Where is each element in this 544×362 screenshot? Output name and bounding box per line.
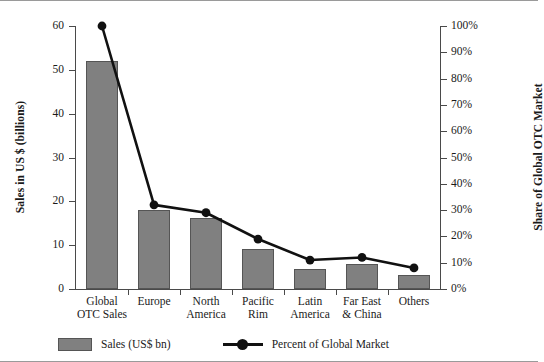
y-axis-left-tick-label: 20	[24, 195, 64, 207]
x-axis-category-label: Others	[380, 295, 448, 308]
legend-item-sales: Sales (US$ bn)	[58, 338, 171, 351]
y-axis-left-tick	[69, 245, 76, 246]
y-axis-right-tick-label: 20%	[451, 230, 497, 242]
y-axis-right-tick-label: 50%	[451, 152, 497, 164]
legend-swatch-icon	[58, 338, 92, 351]
bar	[398, 275, 430, 289]
legend-line-marker-icon	[223, 338, 263, 350]
y-axis-left-tick-label: 0	[24, 283, 64, 295]
x-axis-line	[75, 289, 441, 290]
bar	[190, 218, 222, 289]
y-axis-left-tick	[69, 26, 76, 27]
x-axis-tick	[336, 289, 337, 295]
y-axis-left-tick	[69, 114, 76, 115]
line-marker	[202, 208, 211, 217]
y-axis-right-tick	[440, 26, 447, 27]
y-axis-left-tick-label: 30	[24, 152, 64, 164]
y-axis-left-tick	[69, 158, 76, 159]
y-axis-right-tick-label: 10%	[451, 257, 497, 269]
y-axis-left-tick-label: 60	[24, 20, 64, 32]
y-axis-right-title: Share of Global OTC Market	[532, 67, 544, 247]
y-axis-right-tick	[440, 236, 447, 237]
y-axis-right-tick	[440, 289, 447, 290]
y-axis-right-tick-label: 60%	[451, 125, 497, 137]
y-axis-right-tick	[440, 105, 447, 106]
bar	[294, 269, 326, 289]
x-axis-tick	[128, 289, 129, 295]
line-marker	[98, 22, 107, 31]
y-axis-right-tick-label: 90%	[451, 46, 497, 58]
y-axis-right-tick-label: 70%	[451, 99, 497, 111]
y-axis-right-tick	[440, 210, 447, 211]
y-axis-right-tick-label: 100%	[451, 20, 497, 32]
line-marker	[254, 235, 263, 244]
x-axis-tick	[232, 289, 233, 295]
x-axis-tick	[388, 289, 389, 295]
legend-label-percent: Percent of Global Market	[272, 338, 389, 350]
y-axis-left-tick	[69, 289, 76, 290]
y-axis-right-tick	[440, 263, 447, 264]
y-axis-right-tick-label: 40%	[451, 178, 497, 190]
bar	[346, 264, 378, 289]
y-axis-right-tick	[440, 79, 447, 80]
y-axis-right-tick-label: 0%	[451, 283, 497, 295]
bar	[86, 61, 118, 289]
y-axis-right-tick	[440, 131, 447, 132]
line-marker	[150, 200, 159, 209]
bar	[242, 249, 274, 289]
y-axis-left-tick-label: 50	[24, 64, 64, 76]
line-marker	[358, 253, 367, 262]
x-axis-tick	[180, 289, 181, 295]
y-axis-left-tick	[69, 70, 76, 71]
y-axis-right-tick-label: 80%	[451, 73, 497, 85]
y-axis-right-tick	[440, 52, 447, 53]
chart-legend: Sales (US$ bn) Percent of Global Market	[58, 334, 389, 354]
y-axis-left-tick-label: 10	[24, 239, 64, 251]
y-axis-right-tick	[440, 158, 447, 159]
legend-item-percent: Percent of Global Market	[223, 338, 389, 350]
y-axis-right-tick	[440, 184, 447, 185]
y-axis-left-tick-label: 40	[24, 108, 64, 120]
y-axis-left-tick	[69, 201, 76, 202]
line-marker	[306, 256, 315, 265]
bar	[138, 210, 170, 289]
x-axis-tick	[284, 289, 285, 295]
line-marker	[410, 264, 419, 273]
legend-label-sales: Sales (US$ bn)	[101, 338, 171, 350]
y-axis-right-tick-label: 30%	[451, 204, 497, 216]
